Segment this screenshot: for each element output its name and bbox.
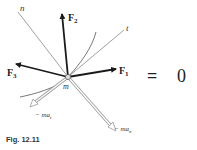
particle-m [65,74,70,79]
equals-sign: = [147,66,157,86]
minus-ma-n-arrow [68,77,116,131]
force-f3-label: F3 [7,67,17,80]
free-body-diagram: n t m F2 F1 F3 − mat − man = 0 Fig. 12.1… [0,0,197,150]
minus-ma-t-label: − mat [35,111,52,120]
minus-ma-n-label: − man [114,125,132,134]
force-f2-label: F2 [68,12,78,25]
tangent-axis-label: t [126,23,129,33]
normal-axis-label: n [20,3,25,13]
particle-label: m [63,82,69,91]
force-f2-arrow [62,14,68,77]
force-f1-arrow [68,69,116,77]
force-f1-label: F1 [119,65,129,78]
figure-caption: Fig. 12.11 [6,135,40,144]
force-f3-arrow [16,64,68,77]
equation-rhs: 0 [177,66,186,86]
